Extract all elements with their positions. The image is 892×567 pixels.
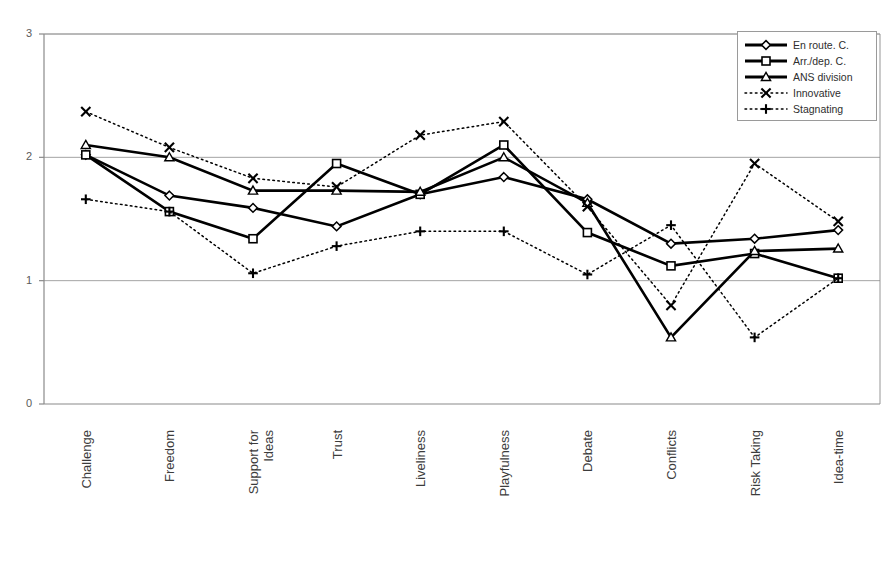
y-tick-label-3: 3 — [10, 28, 32, 39]
x-marker-icon — [750, 159, 759, 168]
legend-label: Innovative — [789, 87, 841, 99]
plus-marker-icon — [583, 270, 593, 280]
x-category-label-debate: Debate — [580, 430, 595, 560]
x-category-label-liveliness: Liveliness — [413, 430, 428, 560]
plus-marker-icon — [81, 194, 91, 204]
series-stagnating — [81, 194, 843, 342]
square-marker-icon — [762, 57, 770, 65]
x-category-label-challenge: Challenge — [79, 430, 94, 560]
y-tick-label-2: 2 — [10, 151, 32, 162]
line-chart: 0123 ChallengeFreedomSupport for IdeasTr… — [0, 0, 892, 567]
diamond-marker-icon — [249, 204, 258, 213]
chart-legend: En route. C.Arr./dep. C.ANS divisionInno… — [737, 31, 877, 121]
square-marker-icon — [667, 262, 675, 270]
legend-swatch — [743, 70, 789, 84]
square-marker-icon — [583, 229, 591, 237]
x-category-label-conflicts: Conflicts — [664, 430, 679, 560]
x-marker-icon — [248, 174, 257, 183]
series-line — [86, 112, 838, 306]
legend-swatch — [743, 86, 789, 100]
legend-label: Arr./dep. C. — [789, 55, 846, 67]
legend-entry-en-route-c: En route. C. — [743, 37, 872, 53]
plus-marker-icon — [248, 268, 258, 278]
square-marker-icon — [249, 235, 257, 243]
square-marker-icon — [500, 141, 508, 149]
plus-marker-icon — [761, 104, 771, 114]
legend-entry-arr-dep-c: Arr./dep. C. — [743, 53, 872, 69]
plus-marker-icon — [415, 227, 425, 237]
x-marker-icon — [81, 107, 90, 116]
x-category-label-playfulness: Playfulness — [497, 430, 512, 560]
legend-entry-innovative: Innovative — [743, 85, 872, 101]
legend-entry-stagnating: Stagnating — [743, 101, 872, 117]
x-category-label-trust: Trust — [330, 430, 345, 560]
diamond-marker-icon — [499, 173, 508, 182]
plus-marker-icon — [332, 241, 342, 251]
x-category-label-risk-taking: Risk Taking — [748, 430, 763, 560]
legend-swatch — [743, 102, 789, 116]
x-marker-icon — [165, 143, 174, 152]
x-marker-icon — [666, 301, 675, 310]
series-line — [86, 145, 838, 278]
square-marker-icon — [82, 151, 90, 159]
series-en-route-c — [81, 150, 842, 248]
diamond-marker-icon — [762, 41, 771, 50]
triangle-marker-icon — [499, 153, 508, 161]
legend-entry-ans-division: ANS division — [743, 69, 872, 85]
y-tick-label-0: 0 — [10, 398, 32, 409]
diamond-marker-icon — [750, 234, 759, 243]
plus-marker-icon — [761, 104, 771, 114]
legend-label: En route. C. — [789, 39, 849, 51]
legend-swatch — [743, 54, 789, 68]
diamond-marker-icon — [834, 226, 843, 235]
x-category-label-support-for-ideas: Support for Ideas — [246, 430, 276, 560]
legend-label: ANS division — [789, 71, 853, 83]
diamond-marker-icon — [332, 222, 341, 231]
plus-marker-icon — [499, 227, 509, 237]
series-arr-dep-c — [82, 141, 842, 282]
diamond-marker-icon — [762, 41, 771, 50]
legend-label: Stagnating — [789, 103, 843, 115]
square-marker-icon — [762, 57, 770, 65]
x-category-label-freedom: Freedom — [162, 430, 177, 560]
diamond-marker-icon — [165, 191, 174, 200]
x-category-label-idea-time: Idea-time — [831, 430, 846, 560]
y-tick-label-1: 1 — [10, 275, 32, 286]
x-marker-icon — [499, 117, 508, 126]
legend-swatch — [743, 38, 789, 52]
square-marker-icon — [333, 160, 341, 168]
